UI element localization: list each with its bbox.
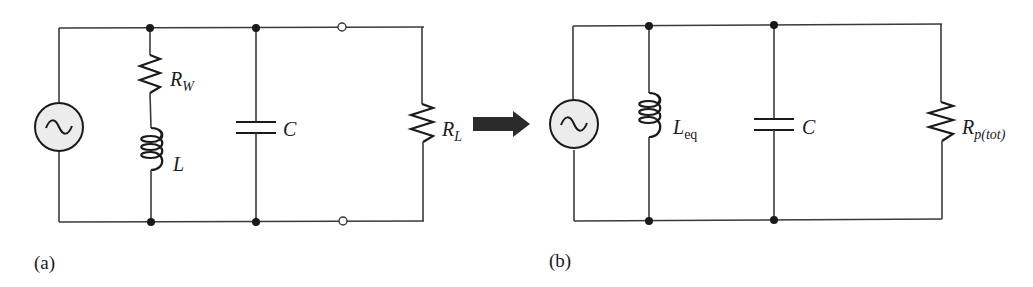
junction-dot	[252, 24, 260, 32]
junction-dot	[645, 22, 653, 30]
branch1-wire-mid-a	[150, 93, 151, 128]
label-c-a: C	[283, 119, 296, 139]
caption-a: (a)	[34, 253, 55, 272]
label-c-b: C	[802, 117, 815, 137]
junction-dot	[770, 21, 778, 29]
panel-b-circuit	[550, 21, 953, 225]
junction-dot	[645, 217, 653, 225]
top-wire-b	[573, 24, 942, 26]
ac-source-icon	[35, 103, 83, 151]
label-rw: RW	[170, 69, 194, 94]
bottom-wire-a	[59, 221, 424, 222]
resistor-rl-icon	[411, 104, 433, 142]
inductor-l-icon	[141, 128, 162, 170]
transform-arrow-icon	[473, 111, 530, 137]
caption-b: (b)	[549, 251, 571, 270]
label-l: L	[173, 154, 184, 174]
ac-source-icon	[550, 100, 598, 148]
label-rl: RL	[442, 119, 462, 144]
open-terminal-top	[338, 23, 346, 31]
junction-dot	[147, 218, 155, 226]
junction-dot	[146, 24, 154, 32]
resistor-rptot-icon	[929, 102, 953, 141]
top-wire-a	[59, 27, 424, 28]
open-terminal-bottom	[339, 217, 347, 225]
label-rptot: Rp(tot)	[962, 117, 1005, 142]
label-leq: Leq	[673, 117, 697, 142]
circuit-diagram	[0, 0, 1033, 287]
panel-a-circuit	[35, 23, 433, 226]
junction-dot	[252, 218, 260, 226]
bottom-wire-b	[574, 219, 942, 221]
junction-dot	[770, 216, 778, 224]
resistor-rw-icon	[140, 55, 160, 93]
inductor-leq-icon	[639, 93, 660, 137]
